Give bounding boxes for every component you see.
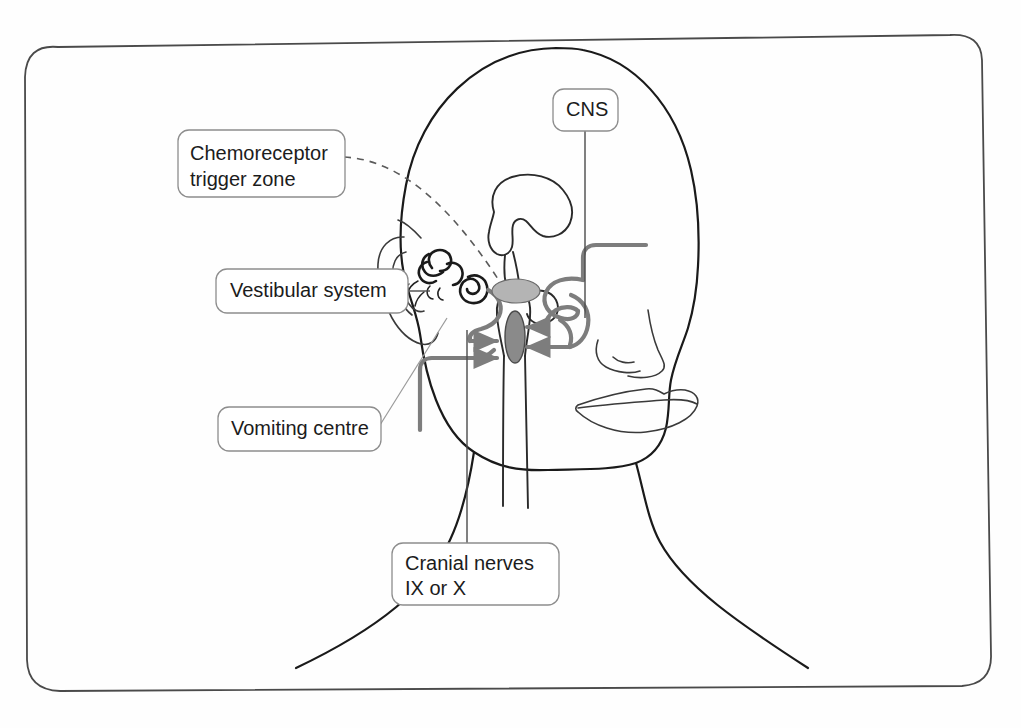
ctz-label-line1: Chemoreceptor: [190, 142, 328, 164]
vomiting-centre-label: Vomiting centre: [231, 417, 369, 439]
label-vestibular-system[interactable]: Vestibular system: [216, 269, 408, 313]
cns-label: CNS: [566, 98, 608, 120]
anatomical-diagram: Chemoreceptor trigger zone Vestibular sy…: [0, 0, 1021, 728]
chemoreceptor-trigger-zone-node: [492, 279, 540, 303]
label-vomiting-centre[interactable]: Vomiting centre: [218, 407, 381, 451]
nose-profile: [596, 310, 664, 378]
lips-profile: [576, 389, 698, 433]
vestibular-apparatus-icon: [407, 250, 487, 306]
diagram-canvas: Chemoreceptor trigger zone Vestibular sy…: [0, 0, 1021, 728]
spinal-cord: [503, 356, 528, 508]
label-chemoreceptor-trigger-zone[interactable]: Chemoreceptor trigger zone: [178, 130, 345, 197]
vestibular-label: Vestibular system: [230, 279, 387, 301]
pathway-lower-afferent: [432, 350, 497, 358]
vomiting-centre-leader-line: [380, 318, 447, 425]
cranial-nerves-label-line2: IX or X: [405, 577, 466, 599]
ctz-label-line2: trigger zone: [190, 168, 296, 190]
label-cranial-nerves[interactable]: Cranial nerves IX or X: [392, 543, 559, 605]
label-cns[interactable]: CNS: [553, 89, 618, 131]
cranial-nerves-label-line1: Cranial nerves: [405, 552, 534, 574]
pathway-right-rail: [583, 245, 646, 280]
vomiting-centre-node: [505, 311, 525, 363]
